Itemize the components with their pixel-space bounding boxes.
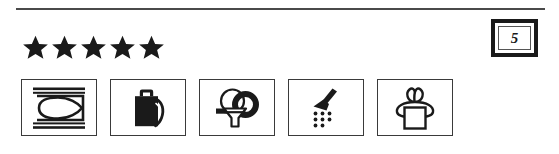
rating-badge-value: 5 [511, 31, 519, 46]
symbol-tile-bottle [110, 79, 186, 136]
star-rating [22, 33, 165, 61]
star-icon [109, 34, 136, 61]
star-icon [22, 34, 49, 61]
symbol-strip [21, 79, 453, 136]
iron-icon [27, 85, 91, 131]
rating-badge: 5 [491, 19, 538, 57]
horizontal-rule [16, 8, 545, 10]
symbol-tile-funnel-coil [199, 79, 275, 136]
shower-spray-icon [294, 85, 358, 131]
star-icon [138, 34, 165, 61]
star-icon [51, 34, 78, 61]
screenshot-root: 5 [0, 0, 559, 154]
star-icon [80, 34, 107, 61]
symbol-tile-gift-bow [377, 79, 453, 136]
symbol-tile-iron [21, 79, 97, 136]
gift-bow-icon [383, 85, 447, 131]
rating-badge-inner: 5 [498, 26, 531, 50]
symbol-tile-shower-spray [288, 79, 364, 136]
funnel-coil-icon [205, 85, 269, 131]
bottle-icon [116, 85, 180, 131]
